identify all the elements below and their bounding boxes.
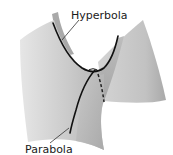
hyperbola-leader-line <box>62 20 79 40</box>
saddle-surface-diagram: Hyperbola Parabola <box>0 0 173 155</box>
parabola-label: Parabola <box>25 143 73 155</box>
hyperbola-label: Hyperbola <box>71 9 128 22</box>
